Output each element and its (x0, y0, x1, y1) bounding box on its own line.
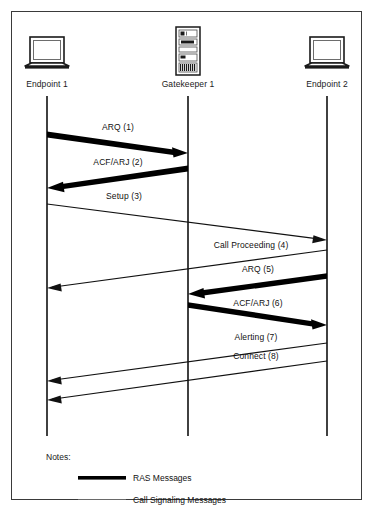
message-label-acf-arj-6: ACF/ARJ (6) (208, 298, 308, 308)
notes-title: Notes: (46, 452, 71, 462)
message-label-alerting-7: Alerting (7) (206, 332, 306, 342)
node-label-endpoint2: Endpoint 2 (280, 79, 374, 89)
message-arrow-acf-arj-2 (47, 166, 188, 193)
message-arrow-setup-3 (47, 204, 327, 243)
message-label-setup-3: Setup (3) (74, 191, 174, 201)
message-arrow-alerting-7 (47, 343, 327, 384)
message-label-call-proceeding-4: Call Proceeding (4) (189, 240, 313, 250)
diagram-page: Endpoint 1 Gatekeeper 1 Endpoint 2 ARQ (… (0, 0, 379, 531)
message-arrow-arq-1 (47, 132, 188, 158)
message-label-acf-arj-2: ACF/ARJ (2) (68, 157, 168, 167)
laptop-icon (305, 37, 349, 69)
node-label-endpoint1: Endpoint 1 (0, 79, 94, 89)
server-tower-icon (176, 27, 200, 75)
message-label-arq-1: ARQ (1) (68, 122, 168, 132)
message-label-arq-5: ARQ (5) (208, 264, 308, 274)
message-arrow-connect-8 (47, 361, 327, 403)
node-label-gatekeeper1: Gatekeeper 1 (141, 79, 235, 89)
legend-label-ras: RAS Messages (133, 473, 192, 483)
laptop-icon (25, 37, 69, 69)
message-label-connect-8: Connect (8) (206, 351, 306, 361)
message-arrow-arq-5 (188, 273, 327, 298)
legend-swatch-ras (78, 476, 126, 480)
legend-label-call-signaling: Call Signaling Messages (133, 495, 226, 505)
